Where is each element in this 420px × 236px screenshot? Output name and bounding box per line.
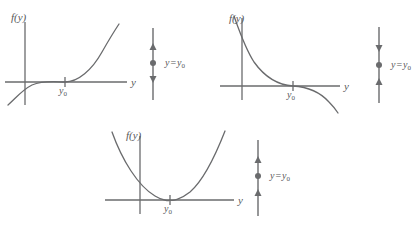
phase-line-label: y=y0	[165, 58, 185, 68]
phase-label-eq: =	[169, 57, 177, 68]
arrow-up-icon-lower	[255, 189, 262, 196]
phase-line-unstable: y=y0	[145, 0, 210, 110]
equilibrium-dot-icon	[376, 62, 382, 68]
arrow-up-icon	[255, 156, 262, 163]
vertical-axis-label: f(y)	[126, 130, 141, 141]
phase-label-value-sub: 0	[408, 64, 412, 72]
arrow-up-icon	[150, 43, 157, 50]
function-curve	[112, 131, 225, 201]
equilibrium-label: y0	[287, 90, 295, 100]
phase-line-label: y=y0	[391, 60, 411, 70]
phase-line-stable: y=y0	[360, 0, 420, 115]
vertical-axis-label: f(y)	[11, 12, 26, 23]
horizontal-axis-label: y	[131, 77, 136, 88]
phase-line-svg	[360, 0, 420, 115]
function-curve	[234, 16, 338, 113]
phase-label-eq: =	[395, 59, 403, 70]
plot-semistable-parabola	[100, 118, 250, 236]
vertical-axis-label: f(y)	[229, 13, 244, 24]
equilibrium-dot-icon	[255, 173, 261, 179]
phase-label-eq: =	[274, 170, 282, 181]
panel-unstable-increasing: f(y) y y0	[0, 0, 145, 110]
arrow-down-icon	[376, 45, 383, 52]
phase-label-value: y	[282, 170, 286, 181]
equilibrium-dot-icon	[150, 60, 156, 66]
equilibrium-label: y0	[59, 86, 67, 96]
phase-line-label: y=y0	[270, 171, 290, 181]
equilibrium-label: y0	[164, 204, 172, 214]
equilibrium-label-sub: 0	[291, 94, 295, 102]
equilibrium-label-sub: 0	[63, 90, 67, 98]
horizontal-axis-label: y	[344, 81, 349, 92]
panel-stable-decreasing: f(y) y y0	[212, 0, 360, 115]
phase-line-svg	[145, 0, 210, 110]
panel-semistable-parabola: f(y) y y0	[100, 118, 250, 236]
phase-label-value: y	[177, 57, 181, 68]
phase-label-value: y	[403, 59, 407, 70]
arrow-up-icon	[376, 78, 383, 85]
arrow-down-icon	[150, 76, 157, 83]
equilibrium-label-sub: 0	[168, 208, 172, 216]
horizontal-axis-label: y	[238, 195, 243, 206]
figure-canvas: f(y) y y0 y=y0 f(y) y y0 y	[0, 0, 420, 236]
phase-label-value-sub: 0	[287, 175, 291, 183]
phase-label-value-sub: 0	[182, 62, 186, 70]
phase-line-semistable: y=y0	[248, 118, 328, 236]
